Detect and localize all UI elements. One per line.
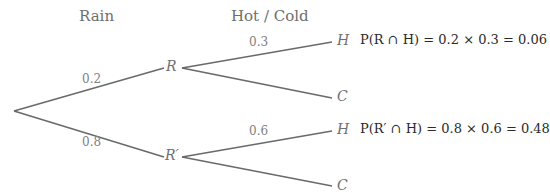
node-r-prime: R′ (165, 147, 179, 163)
prob-r-h: 0.3 (249, 35, 268, 49)
node-c-1: C (337, 88, 348, 104)
branch-r-c (182, 68, 332, 98)
prob-root-r-prime: 0.8 (82, 135, 101, 149)
node-c-2: C (337, 177, 348, 193)
branch-r-prime-c (182, 157, 332, 186)
node-r: R (166, 58, 177, 74)
prob-root-r: 0.2 (82, 72, 101, 86)
node-h-1: H (337, 32, 349, 48)
header-hot-cold: Hot / Cold (231, 7, 309, 25)
equation-r-prime-and-h: P(R′ ∩ H) = 0.8 × 0.6 = 0.48 (360, 121, 550, 136)
node-h-2: H (337, 121, 349, 137)
header-rain: Rain (79, 7, 114, 25)
equation-r-and-h: P(R ∩ H) = 0.2 × 0.3 = 0.06 (360, 32, 547, 47)
prob-r-prime-h: 0.6 (249, 124, 268, 138)
branch-root-r-prime (14, 111, 164, 157)
